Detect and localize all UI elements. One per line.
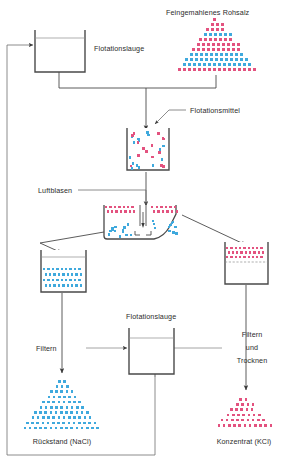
particle bbox=[217, 43, 220, 46]
particle bbox=[118, 206, 120, 208]
particle bbox=[74, 279, 76, 281]
particle bbox=[94, 422, 97, 425]
particle bbox=[218, 63, 221, 66]
particle bbox=[47, 422, 50, 425]
particle bbox=[24, 427, 27, 430]
particle bbox=[168, 230, 170, 232]
particle bbox=[74, 268, 76, 270]
particle bbox=[80, 284, 82, 286]
particle bbox=[45, 273, 47, 275]
particle bbox=[247, 419, 250, 422]
particle bbox=[195, 53, 198, 56]
particle bbox=[66, 406, 69, 409]
particle bbox=[219, 33, 222, 36]
particle bbox=[230, 53, 233, 56]
particle bbox=[216, 28, 219, 31]
particle bbox=[202, 43, 205, 46]
particle bbox=[243, 247, 245, 249]
particle bbox=[236, 403, 239, 406]
particle bbox=[224, 38, 227, 41]
particle bbox=[165, 206, 167, 208]
particle bbox=[34, 411, 37, 414]
particle bbox=[229, 38, 232, 41]
particle bbox=[114, 206, 116, 208]
particle bbox=[73, 401, 76, 404]
particle bbox=[264, 424, 267, 427]
particle bbox=[169, 206, 171, 208]
particle bbox=[109, 206, 111, 208]
particle bbox=[219, 38, 222, 41]
particle bbox=[237, 48, 240, 51]
particle bbox=[78, 401, 81, 404]
particle bbox=[232, 251, 234, 253]
particle bbox=[226, 419, 229, 422]
particle bbox=[73, 422, 76, 425]
particle bbox=[193, 63, 196, 66]
particle bbox=[209, 33, 212, 36]
particle bbox=[45, 406, 48, 409]
heap-residue bbox=[22, 380, 102, 432]
particle bbox=[130, 234, 132, 236]
particle bbox=[241, 419, 244, 422]
particle bbox=[243, 68, 246, 71]
particle bbox=[75, 284, 77, 286]
particle bbox=[162, 145, 165, 148]
particle bbox=[252, 256, 254, 258]
label-raw-salt: Feingemahlenes Rohsalz bbox=[166, 8, 249, 17]
particle bbox=[108, 233, 110, 235]
particle bbox=[83, 422, 86, 425]
particle bbox=[240, 58, 243, 61]
particle bbox=[39, 411, 42, 414]
particle bbox=[230, 247, 232, 249]
particle bbox=[235, 53, 238, 56]
particle bbox=[249, 251, 251, 253]
particle bbox=[221, 419, 224, 422]
particle bbox=[125, 234, 127, 236]
particle bbox=[91, 427, 94, 430]
particle bbox=[209, 38, 212, 41]
particle bbox=[188, 63, 191, 66]
particle bbox=[208, 63, 211, 66]
particle bbox=[228, 63, 231, 66]
particle bbox=[231, 419, 234, 422]
particle bbox=[233, 68, 236, 71]
particle bbox=[57, 422, 60, 425]
froth-particles bbox=[226, 247, 265, 260]
particle bbox=[239, 247, 241, 249]
particle bbox=[203, 68, 206, 71]
particle bbox=[240, 408, 243, 411]
particle bbox=[42, 401, 45, 404]
particle bbox=[190, 58, 193, 61]
particle bbox=[248, 68, 251, 71]
particle bbox=[213, 63, 216, 66]
particle bbox=[166, 210, 168, 212]
particle bbox=[242, 414, 245, 417]
particle bbox=[202, 48, 205, 51]
particle bbox=[80, 273, 82, 275]
particle bbox=[49, 273, 51, 275]
particle bbox=[45, 284, 47, 286]
particle bbox=[171, 210, 173, 212]
particle bbox=[50, 411, 53, 414]
particle bbox=[84, 416, 87, 419]
particle bbox=[236, 419, 239, 422]
particle bbox=[185, 58, 188, 61]
particle bbox=[123, 226, 125, 228]
particle bbox=[174, 206, 176, 208]
particle bbox=[210, 58, 213, 61]
particle bbox=[88, 422, 91, 425]
particle bbox=[76, 411, 79, 414]
particle bbox=[198, 68, 201, 71]
particle bbox=[197, 43, 200, 46]
particle bbox=[162, 137, 165, 140]
particle bbox=[205, 53, 208, 56]
particle bbox=[237, 414, 240, 417]
particle bbox=[31, 422, 34, 425]
particle bbox=[208, 68, 211, 71]
particle bbox=[81, 427, 84, 430]
particle bbox=[56, 268, 58, 270]
particle bbox=[258, 251, 260, 253]
particle bbox=[254, 424, 257, 427]
particle bbox=[244, 424, 247, 427]
particle bbox=[56, 279, 58, 281]
